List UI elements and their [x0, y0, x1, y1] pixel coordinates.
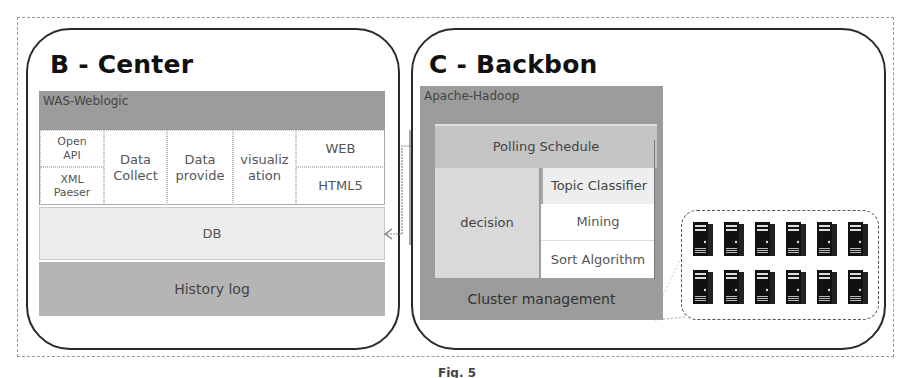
- html5-module: HTML5: [296, 167, 385, 205]
- server-tower-icon: [754, 221, 776, 257]
- server-tower-icon: [723, 221, 745, 257]
- server-tower-icon: [692, 269, 714, 305]
- xml-parser-module: XML Paeser: [40, 167, 104, 205]
- server-tower-icon: [785, 221, 807, 257]
- server-tower-icon: [723, 269, 745, 305]
- center-panel-title: B - Center: [50, 50, 193, 79]
- decision-module: decision: [435, 168, 539, 278]
- center-modules-row: Open API XML Paeser Data Collect Data pr…: [39, 129, 385, 205]
- apache-hadoop-label: Apache-Hadoop: [420, 86, 620, 106]
- server-tower-icon: [847, 221, 869, 257]
- figure-caption: Fig. 5: [0, 366, 914, 378]
- polling-schedule-layer: Polling Schedule: [435, 124, 657, 168]
- topic-classifier-module: Topic Classifier: [541, 168, 655, 204]
- server-tower-icon: [816, 221, 838, 257]
- server-tower-icon: [816, 269, 838, 305]
- server-tower-icon: [754, 269, 776, 305]
- db-layer: DB: [39, 207, 385, 260]
- backbone-panel-title: C - Backbon: [429, 50, 598, 79]
- server-tower-icon: [692, 221, 714, 257]
- mining-module: Mining: [541, 204, 655, 241]
- server-tower-icon: [785, 269, 807, 305]
- data-collect-module: Data Collect: [104, 130, 167, 205]
- data-provide-module: Data provide: [167, 130, 233, 205]
- server-tower-icon: [847, 269, 869, 305]
- sort-algorithm-module: Sort Algorithm: [541, 241, 655, 278]
- cluster-management-layer: Cluster management: [420, 279, 663, 320]
- visualization-module: visualiz ation: [233, 130, 296, 205]
- history-log-layer: History log: [39, 262, 385, 316]
- open-api-module: Open API: [40, 130, 104, 167]
- was-weblogic-label: WAS-Weblogic: [39, 91, 239, 111]
- web-module: WEB: [296, 130, 385, 167]
- was-weblogic-bar: WAS-Weblogic: [39, 91, 385, 131]
